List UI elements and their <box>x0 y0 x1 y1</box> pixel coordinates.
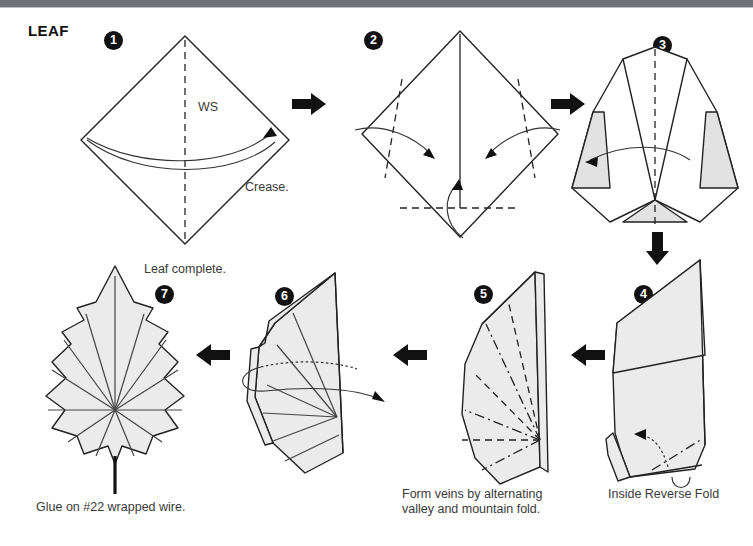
step-2-diagram <box>355 26 565 246</box>
step4-upper-facet <box>613 260 705 373</box>
page-top-bar <box>0 0 753 7</box>
caption-glue-wire: Glue on #22 wrapped wire. <box>36 500 185 515</box>
step3-right-shaded-flap <box>700 112 738 188</box>
step4-reverse-fold-loop <box>672 477 690 488</box>
step-6-diagram <box>225 265 405 480</box>
step-3-diagram <box>560 40 750 235</box>
step-1-diagram <box>70 30 300 250</box>
page-title: LEAF <box>28 22 69 39</box>
step-5-diagram <box>440 262 600 492</box>
label-crease: Crease. <box>245 180 289 195</box>
arrow-step1-to-step2 <box>292 92 328 116</box>
step5-main-body <box>462 272 540 484</box>
step6-motion-arrowhead <box>372 391 385 402</box>
step-4-diagram <box>590 255 740 485</box>
step3-left-shaded-flap <box>572 112 610 188</box>
origami-instruction-sheet: LEAF 1 WS Crease. 2 3 <box>0 0 753 546</box>
page-top-bar-edge <box>0 7 753 8</box>
caption-form-veins: Form veins by alternating valley and mou… <box>402 487 542 517</box>
step-7-diagram <box>22 258 212 508</box>
caption-inside-reverse-fold: Inside Reverse Fold <box>608 487 719 502</box>
label-ws: WS <box>198 100 218 115</box>
